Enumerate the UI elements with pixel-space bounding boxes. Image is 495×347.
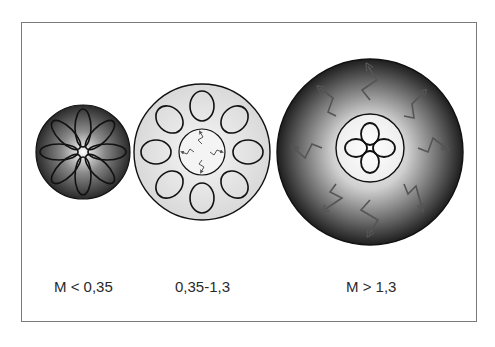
- panel-3-label: M > 1,3: [346, 278, 396, 295]
- panel-1-label: M < 0,35: [54, 278, 113, 295]
- panel-3-circle: [277, 59, 463, 245]
- panel-1-circle: [36, 105, 130, 199]
- panel-2-circle: [134, 84, 270, 220]
- panel-2-label: 0,35-1,3: [175, 278, 230, 295]
